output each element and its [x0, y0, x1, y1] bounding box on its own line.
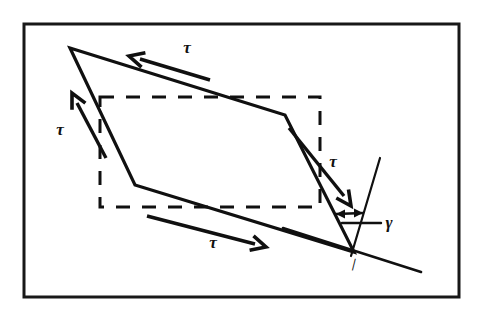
vertex-tick-mark: ∣ [350, 257, 356, 271]
tau-arrow-bottom-label: τ [209, 233, 217, 252]
tau-arrow-left-label: τ [56, 120, 64, 139]
tau-arrow-right-label: τ [329, 152, 337, 171]
gamma-label: γ [385, 213, 393, 232]
shear-strain-figure: ττττγ∣ [0, 0, 483, 312]
tau-arrow-top-label: τ [183, 38, 191, 57]
page-background [0, 0, 483, 312]
figure-canvas: ττττγ∣ [0, 0, 483, 312]
